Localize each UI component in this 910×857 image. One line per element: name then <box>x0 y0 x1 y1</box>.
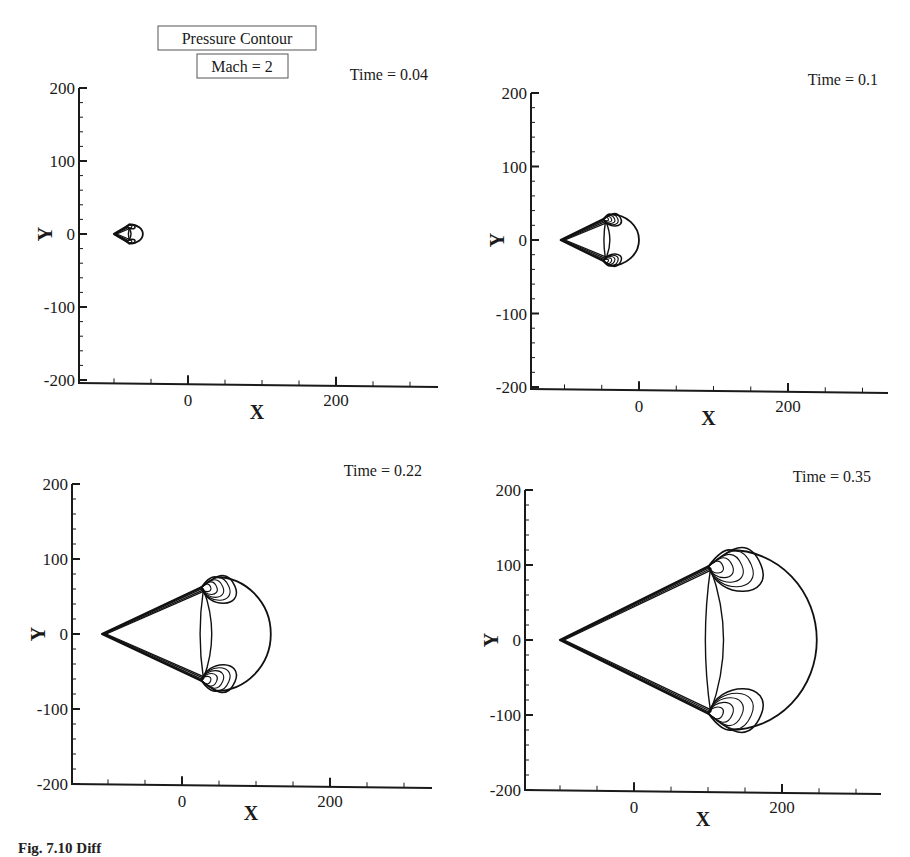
x-tick-label: 0 <box>630 798 639 817</box>
x-axis-line <box>530 389 888 393</box>
y-tick-label: 100 <box>50 152 76 171</box>
y-axis-title: Y <box>27 626 49 641</box>
x-axis-line <box>71 784 432 788</box>
inner-lens-contour <box>203 589 211 678</box>
vortex-contour <box>127 240 132 243</box>
contour-panel-4: 2001000-100-2000200XYTime = 0.35 <box>480 468 881 830</box>
y-tick-label: 200 <box>50 79 76 98</box>
y-tick-label: 200 <box>43 475 69 494</box>
x-axis-line <box>78 383 438 387</box>
wedge-shock-line <box>561 568 709 713</box>
x-tick-label: 200 <box>769 798 795 817</box>
x-axis-title: X <box>701 407 716 429</box>
y-tick-label: -200 <box>37 775 68 794</box>
inner-lens-contour <box>705 568 710 712</box>
time-annotation: Time = 0.35 <box>793 468 871 485</box>
subtitle-label: Mach = 2 <box>211 58 272 75</box>
y-tick-label: 0 <box>60 625 69 644</box>
contour-panel-1: 2001000-100-2000200XYTime = 0.04 <box>34 66 438 423</box>
y-tick-label: 100 <box>43 550 69 569</box>
y-tick-label: 0 <box>67 225 76 244</box>
inner-lens-contour <box>711 568 724 712</box>
figure-caption: Fig. 7.10 Diff <box>18 840 101 857</box>
y-tick-label: -200 <box>44 371 75 390</box>
pressure-contours <box>560 548 817 733</box>
wedge-shock-line <box>106 591 203 676</box>
y-tick-label: 200 <box>502 84 528 103</box>
contour-panel-2: 2001000-100-2000200XYTime = 0.1 <box>486 71 888 429</box>
y-axis-title: Y <box>34 226 56 241</box>
x-tick-label: 0 <box>184 391 193 410</box>
y-axis-title: Y <box>486 232 508 247</box>
y-tick-label: -100 <box>37 700 68 719</box>
time-annotation: Time = 0.22 <box>344 462 422 479</box>
x-tick-label: 200 <box>323 391 349 410</box>
wedge-shock-line <box>563 569 710 711</box>
x-tick-label: 200 <box>317 792 343 811</box>
x-tick-label: 0 <box>178 792 187 811</box>
y-tick-label: -200 <box>490 781 521 800</box>
inner-lens-contour <box>129 228 131 240</box>
inner-lens-contour <box>604 221 606 259</box>
y-tick-label: 100 <box>502 158 528 177</box>
x-axis-title: X <box>696 808 711 830</box>
y-tick-label: -100 <box>496 305 527 324</box>
pressure-contours <box>561 214 639 267</box>
inner-lens-contour <box>200 589 203 678</box>
wedge-shock-line <box>564 570 710 709</box>
wedge-shock-line <box>102 587 201 680</box>
y-tick-label: -100 <box>490 706 521 725</box>
inner-lens-contour <box>606 221 610 259</box>
y-tick-label: 0 <box>513 631 522 650</box>
panels: 2001000-100-2000200XYTime = 0.042001000-… <box>27 66 888 830</box>
contour-panel-3: 2001000-100-2000200XYTime = 0.22 <box>27 462 432 824</box>
x-axis-line <box>524 790 881 794</box>
x-axis-title: X <box>250 401 265 423</box>
pressure-contours <box>114 224 143 244</box>
inner-lens-contour <box>128 228 129 240</box>
y-tick-label: 100 <box>496 556 522 575</box>
title-box-group: Pressure Contour Mach = 2 <box>158 26 316 78</box>
x-tick-label: 0 <box>635 397 644 416</box>
title-label: Pressure Contour <box>182 30 293 47</box>
pressure-contours <box>102 575 271 692</box>
vortex-contour <box>127 225 132 228</box>
time-annotation: Time = 0.1 <box>808 71 878 88</box>
y-tick-label: -100 <box>44 298 75 317</box>
wedge-shock-line <box>105 590 203 678</box>
wedge-shock-line <box>103 589 202 680</box>
wedge-shock-line <box>560 566 709 714</box>
y-tick-label: 0 <box>519 231 528 250</box>
vortex-contour <box>709 689 764 733</box>
x-axis-title: X <box>244 802 259 824</box>
y-tick-label: -200 <box>496 378 527 397</box>
y-tick-label: 200 <box>496 481 522 500</box>
y-axis-title: Y <box>480 632 502 647</box>
vortex-contour <box>709 548 764 592</box>
time-annotation: Time = 0.04 <box>350 66 428 83</box>
x-tick-label: 200 <box>775 397 801 416</box>
